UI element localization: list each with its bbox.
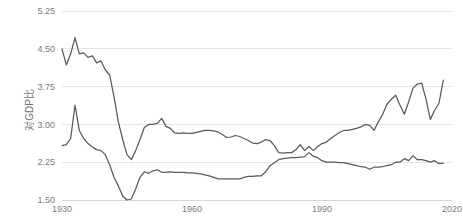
- y-axis-tick-label: 3.00: [37, 120, 55, 130]
- y-axis-tick-labels: 1.502.253.003.754.505.25: [37, 6, 55, 205]
- x-axis-tick-labels: 1930196019902020: [52, 204, 462, 214]
- y-axis-tick-label: 3.75: [37, 82, 55, 92]
- x-axis-tick-label: 1960: [182, 204, 202, 214]
- series-lower: [62, 105, 443, 200]
- gridlines: [62, 11, 452, 200]
- data-series: [62, 38, 443, 200]
- y-axis-tick-label: 2.25: [37, 157, 55, 167]
- y-axis-tick-label: 5.25: [37, 6, 55, 16]
- x-axis-tick-label: 1930: [52, 204, 72, 214]
- x-axis-tick-label: 1990: [312, 204, 332, 214]
- series-upper: [62, 38, 443, 160]
- y-axis-title: 对GDP比: [23, 89, 35, 131]
- chart-container: 1.502.253.003.754.505.25 193019601990202…: [0, 0, 463, 218]
- y-axis-tick-label: 4.50: [37, 44, 55, 54]
- line-chart: 1.502.253.003.754.505.25 193019601990202…: [0, 0, 463, 218]
- x-axis-tick-label: 2020: [442, 204, 462, 214]
